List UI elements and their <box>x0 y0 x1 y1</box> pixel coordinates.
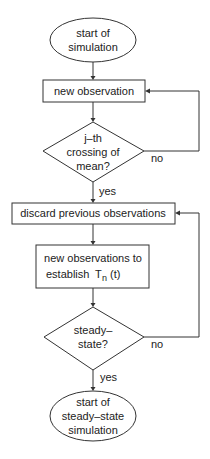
node-steady-line-2: state? <box>78 338 108 350</box>
edge-label-steady-no: no <box>151 338 163 350</box>
node-crossing-line-2: crossing of <box>66 146 120 158</box>
arrow-head-icon <box>91 118 96 122</box>
arrow-head-icon <box>175 211 180 216</box>
arrow-head-icon <box>91 76 96 80</box>
node-end-line-3: simulation <box>68 424 118 436</box>
arrow-head-icon <box>91 303 96 307</box>
node-new-observation-label: new observation <box>54 85 134 97</box>
node-discard-label: discard previous observations <box>20 207 166 219</box>
node-crossing-line-3: mean? <box>76 160 110 172</box>
node-end-line-1: start of <box>76 396 111 408</box>
flowchart-diagram: start of simulation new observation j–th… <box>0 0 210 459</box>
node-new-observation: new observation <box>43 80 145 102</box>
node-crossing-decision: j–th crossing of mean? <box>43 122 144 182</box>
arrow-head-icon <box>91 199 96 203</box>
arrow-head-icon <box>91 387 96 391</box>
edge-label-steady-yes: yes <box>100 371 118 383</box>
arrow-head-icon <box>91 241 96 245</box>
node-start-line-2: simulation <box>68 41 118 53</box>
node-start-line-1: start of <box>76 27 111 39</box>
edge-steady-no-loop <box>144 213 199 337</box>
node-start-of-steady-state-simulation: start of steady–state simulation <box>50 391 136 441</box>
math-symbol: T <box>95 268 102 280</box>
node-establish-line-2: establish <box>46 268 89 280</box>
node-crossing-line-1: j–th <box>83 132 102 144</box>
node-steady-line-1: steady– <box>74 324 113 336</box>
edge-label-crossing-no: no <box>151 152 163 164</box>
edge-crossing-no-loop <box>144 91 199 151</box>
node-discard-previous-observations: discard previous observations <box>12 203 175 224</box>
node-steady-state-decision: steady– state? <box>44 307 144 370</box>
arrow-head-icon <box>145 89 150 94</box>
node-establish-observations: new observations to establish T n (t) <box>36 245 149 288</box>
node-start-of-simulation: start of simulation <box>50 18 136 62</box>
node-establish-line-1: new observations to <box>44 252 142 264</box>
math-argument: (t) <box>110 268 120 280</box>
node-end-line-2: steady–state <box>62 410 124 422</box>
math-subscript: n <box>102 273 107 283</box>
edge-label-crossing-yes: yes <box>99 185 117 197</box>
